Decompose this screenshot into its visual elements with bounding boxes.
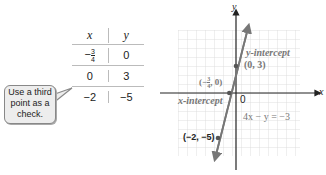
x-intercept-point [227,91,232,96]
y-intercept-point-label: (0, 3) [244,59,266,70]
callout-note: Use a third point as a check. [4,85,56,124]
x-axis-label: x [319,86,323,97]
origin-label: 0 [240,94,246,105]
x-intercept-point-label: (−34, 0) [199,76,222,89]
y-intercept-point [234,64,239,69]
y-axis-label: y [232,1,236,12]
equation-label: 4x − y = −3 [243,111,290,122]
x-intercept-label: x-intercept [178,95,222,106]
check-point-label: (−2, −5) [183,132,215,142]
y-intercept-label: y-intercept [246,47,290,58]
check-point [216,136,221,141]
